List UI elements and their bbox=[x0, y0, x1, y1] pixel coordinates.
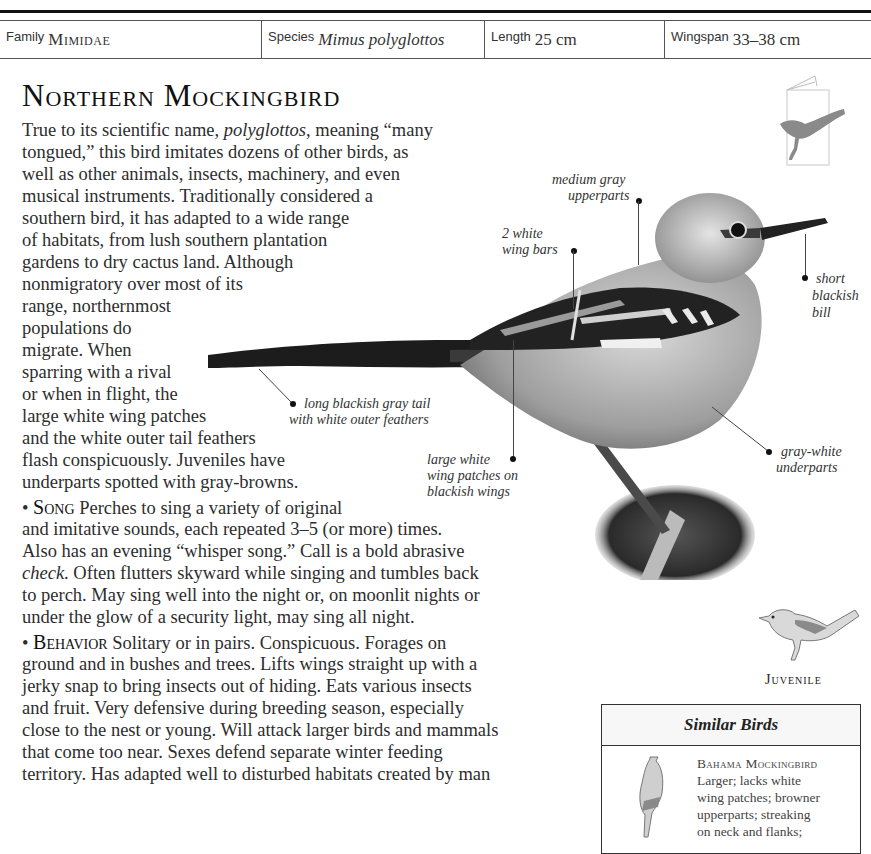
intro-line: large white wing patches bbox=[22, 405, 206, 427]
behavior-line: • Behavior Solitary or in pairs. Conspic… bbox=[22, 631, 446, 654]
juvenile-label: Juvenile bbox=[765, 672, 822, 688]
behavior-line: territory. Has adapted well to disturbed… bbox=[22, 763, 490, 785]
callout-dot bbox=[571, 248, 577, 254]
callout-wing-bars: 2 white wing bars bbox=[502, 226, 558, 258]
similar-bird-item: Bahama Mockingbird Larger; lacks white w… bbox=[697, 755, 820, 840]
callout-leader bbox=[638, 201, 639, 265]
callout-bill: short blackish bill bbox=[812, 270, 859, 321]
intro-line: migrate. When bbox=[22, 339, 132, 361]
song-line: • Song Perches to sing a variety of orig… bbox=[22, 496, 342, 519]
family-value: Mimidae bbox=[48, 30, 110, 49]
intro-line: musical instruments. Traditionally consi… bbox=[22, 185, 373, 207]
fact-length: Length25 cm bbox=[485, 21, 665, 58]
page-title: Northern Mockingbird bbox=[22, 78, 340, 114]
fact-family: FamilyMimidae bbox=[0, 21, 262, 58]
intro-line: and the white outer tail feathers bbox=[22, 427, 256, 449]
callout-dot bbox=[766, 449, 772, 455]
behavior-line: and fruit. Very defensive during breedin… bbox=[22, 697, 464, 719]
wingspan-label: Wingspan bbox=[671, 29, 729, 44]
callout-tail: long blackish gray tail with white outer… bbox=[289, 396, 430, 428]
intro-line: flash conspicuously. Juveniles have bbox=[22, 449, 285, 471]
length-label: Length bbox=[491, 29, 531, 44]
bahama-mockingbird-illustration bbox=[632, 753, 672, 843]
similar-birds-heading: Similar Birds bbox=[602, 705, 860, 746]
intro-line: of habitats, from lush southern plantati… bbox=[22, 229, 327, 251]
intro-line: well as other animals, insects, machiner… bbox=[22, 163, 400, 185]
behavior-line: ground and in bushes and trees. Lifts wi… bbox=[22, 653, 477, 675]
song-line: to perch. May sing well into the night o… bbox=[22, 584, 480, 606]
song-line: check. Often flutters skyward while sing… bbox=[22, 562, 479, 584]
intro-line: nonmigratory over most of its bbox=[22, 273, 243, 295]
intro-line: or when in flight, the bbox=[22, 383, 178, 405]
callout-dot bbox=[802, 275, 808, 281]
wingspan-value: 33–38 cm bbox=[733, 30, 801, 49]
callout-leader bbox=[805, 234, 806, 278]
intro-line: tongued,” this bird imitates dozens of o… bbox=[22, 141, 408, 163]
bullet: • bbox=[22, 498, 33, 518]
top-rule bbox=[0, 10, 871, 13]
callout-underparts: gray-white underparts bbox=[776, 444, 842, 476]
species-label: Species bbox=[268, 29, 314, 44]
fact-species: SpeciesMimus polyglottos bbox=[262, 21, 485, 58]
song-line: under the glow of a security light, may … bbox=[22, 606, 415, 628]
similar-birds-box: Similar Birds Bahama Mockingbird Larger;… bbox=[601, 704, 861, 854]
intro-line: gardens to dry cactus land. Although bbox=[22, 251, 293, 273]
intro-line: southern bird, it has adapted to a wide … bbox=[22, 207, 349, 229]
callout-wing-patches: large white wing patches on blackish win… bbox=[427, 452, 518, 500]
intro-line: range, northernmost bbox=[22, 295, 171, 317]
song-line: Also has an evening “whisper song.” Call… bbox=[22, 540, 464, 562]
behavior-heading: Behavior bbox=[33, 631, 108, 653]
callout-leader bbox=[513, 340, 514, 458]
behavior-line: close to the nest or young. Will attack … bbox=[22, 719, 498, 741]
song-heading: Song bbox=[33, 496, 74, 518]
intro-line: True to its scientific name, polyglottos… bbox=[22, 119, 433, 141]
length-value: 25 cm bbox=[535, 30, 577, 49]
behavior-line: jerky snap to bring insects out of hidin… bbox=[22, 675, 472, 697]
intro-line: populations do bbox=[22, 317, 131, 339]
fact-wingspan: Wingspan33–38 cm bbox=[665, 21, 871, 58]
facts-bar: FamilyMimidae SpeciesMimus polyglottos L… bbox=[0, 20, 871, 59]
behavior-line: that come too near. Sexes defend separat… bbox=[22, 741, 443, 763]
intro-line: underparts spotted with gray-browns. bbox=[22, 471, 298, 493]
range-map-icon bbox=[775, 72, 845, 172]
intro-line: sparring with a rival bbox=[22, 361, 172, 383]
callout-upperparts: medium gray upperparts bbox=[552, 172, 629, 204]
callout-leader bbox=[710, 405, 770, 455]
similar-bird-name: Bahama Mockingbird bbox=[697, 755, 820, 772]
song-line: and imitative sounds, each repeated 3–5 … bbox=[22, 518, 442, 540]
juvenile-bird-illustration bbox=[755, 598, 865, 668]
bullet: • bbox=[22, 633, 33, 653]
callout-dot bbox=[636, 198, 642, 204]
family-label: Family bbox=[6, 29, 44, 44]
species-value: Mimus polyglottos bbox=[318, 30, 444, 49]
callout-leader bbox=[573, 251, 574, 309]
